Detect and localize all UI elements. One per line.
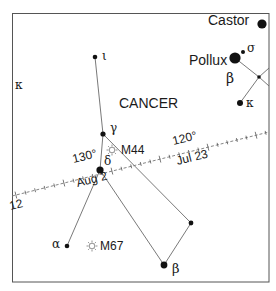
star-beta-cnc: [161, 262, 168, 269]
ecliptic-tick: [217, 143, 218, 147]
ecliptic-tick: [140, 162, 141, 166]
ecliptic-tick: [35, 188, 36, 192]
label-iota: ι: [102, 50, 107, 62]
star-sigma-gem: [241, 50, 245, 54]
ecliptic-tick: [121, 167, 122, 171]
label-beta-gemini: β: [226, 71, 234, 85]
stars: [65, 19, 267, 268]
line-iota-gamma: [95, 57, 103, 134]
ecliptic-tick: [265, 131, 266, 135]
star-castor: [257, 19, 266, 28]
label-m44: M44: [121, 144, 144, 156]
label-m67: M67: [100, 240, 123, 252]
line-junction-up: [259, 68, 269, 77]
label-edge-12: 12: [8, 197, 24, 212]
ecliptic-tick: [236, 138, 237, 142]
line-junction-right: [259, 77, 269, 86]
label-delta: δ: [104, 155, 111, 167]
ecliptic-tick: [169, 155, 170, 159]
line-gamma-delta: [100, 134, 103, 170]
open-cluster-icon: [89, 243, 95, 249]
star-alpha-cnc: [65, 244, 70, 249]
ecliptic-ticks: [15, 131, 266, 199]
label-kappa-left: κ: [15, 79, 23, 91]
ecliptic-tick: [246, 136, 247, 140]
label-kappa-gem: κ: [246, 97, 254, 109]
star-pollux: [229, 52, 240, 63]
star-kappa-gem: [237, 100, 243, 106]
ecliptic-tick: [227, 140, 228, 144]
label-castor: Castor: [208, 13, 249, 27]
ecliptic-tick: [54, 184, 55, 188]
ecliptic-tick: [25, 191, 26, 195]
constellation-label: CANCER: [119, 96, 178, 110]
cluster-m67: [87, 241, 98, 252]
ecliptic-tick: [73, 179, 74, 183]
ecliptic-tick: [131, 164, 132, 168]
ecliptic-tick: [44, 186, 45, 190]
open-cluster-icon: [109, 147, 115, 153]
label-pollux: Pollux: [189, 53, 227, 67]
label-gamma: γ: [110, 122, 117, 134]
star-star-unlabeled: [189, 221, 194, 226]
ecliptic: [12, 131, 269, 199]
star-iota-cnc: [93, 55, 98, 60]
line-star-beta: [164, 223, 191, 265]
label-beta-cancer: β: [172, 262, 180, 275]
label-alpha: α: [52, 238, 60, 250]
star-gamma-cnc: [100, 131, 105, 136]
label-sigma-gem: σ: [247, 42, 255, 54]
line-gamma-star: [103, 134, 191, 223]
ecliptic-tick: [150, 160, 151, 164]
star-gem-junction: [257, 75, 261, 79]
